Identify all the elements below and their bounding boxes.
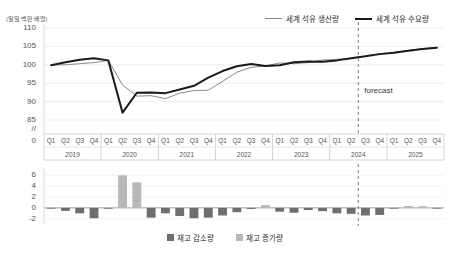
legend-item-stock-build: 재고 증가량 (236, 232, 283, 243)
bar-stock-draw (61, 208, 70, 211)
line-chart-legend: 세계 석유 생산량 세계 석유 수요량 (265, 13, 429, 24)
bar-stock-draw (361, 208, 370, 216)
x-axis-quarter-label: Q2 (290, 137, 299, 145)
x-axis-quarter-label: Q3 (247, 137, 256, 145)
legend-label-stock-build: 재고 증가량 (246, 232, 283, 243)
bar-stock-draw (147, 208, 156, 218)
bar-stock-draw (218, 208, 227, 216)
bar-stock-draw (432, 208, 441, 209)
x-axis-year-label-2025: 2025 (408, 151, 423, 158)
bar-stock-build (118, 175, 127, 208)
bar-stock-build (418, 206, 427, 208)
x-axis-quarter-label: Q3 (304, 137, 313, 145)
bar-stock-draw (290, 208, 299, 213)
x-axis-quarter-label: Q2 (175, 137, 184, 145)
x-axis-quarter-label: Q4 (90, 137, 99, 145)
bar-stock-draw (390, 208, 399, 209)
x-axis-quarter-label: Q2 (233, 137, 242, 145)
x-axis-year-label-2024: 2024 (351, 151, 366, 158)
x-axis-quarter-label: Q1 (218, 137, 227, 145)
bar-y-axis-tick-6: 6 (18, 170, 36, 179)
y-axis-tick-85: 85 (10, 115, 36, 124)
legend-label-stock-draw: 재고 감소량 (177, 232, 214, 243)
x-axis-quarter-label: Q3 (190, 137, 199, 145)
y-axis-break-symbol: // (10, 124, 36, 133)
bar-stock-draw (90, 208, 99, 218)
x-axis-quarter-label: Q3 (133, 137, 142, 145)
x-axis-quarter-label: Q1 (104, 137, 113, 145)
y-axis-tick-100: 100 (10, 60, 36, 69)
legend-line-production-icon (265, 18, 282, 19)
bar-stock-draw (75, 208, 84, 213)
x-axis-year-label-2021: 2021 (180, 151, 195, 158)
x-axis-quarter-label: Q4 (433, 137, 442, 145)
chart-canvas: Q1Q2Q3Q42019Q1Q2Q3Q42020Q1Q2Q3Q42021Q1Q2… (0, 0, 450, 256)
bar-stock-draw (161, 208, 170, 213)
legend-label-demand: 세계 석유 수요량 (376, 13, 429, 24)
x-axis-quarter-label: Q1 (333, 137, 342, 145)
bar-stock-build (132, 182, 141, 208)
legend-item-stock-draw: 재고 감소량 (167, 232, 214, 243)
x-axis-quarter-label: Q4 (147, 137, 156, 145)
bar-stock-draw (175, 208, 184, 216)
x-axis-year-label-2022: 2022 (237, 151, 252, 158)
bar-stock-draw (375, 208, 384, 215)
bar-stock-draw (47, 208, 56, 209)
chart-root: (일일 백만 배럴) 세계 석유 생산량 세계 석유 수요량 forecast … (0, 0, 450, 256)
bar-y-axis-tick-0: 0 (18, 203, 36, 212)
bar-stock-draw (304, 208, 313, 210)
line-series-demand (51, 48, 437, 113)
y-axis-tick-95: 95 (10, 78, 36, 87)
x-axis-quarter-label: Q3 (361, 137, 370, 145)
x-axis-quarter-label: Q4 (318, 137, 327, 145)
bar-stock-draw (275, 208, 284, 212)
x-axis-quarter-label: Q1 (161, 137, 170, 145)
bar-y-axis-tick-4: 4 (18, 181, 36, 190)
x-axis-quarter-label: Q1 (47, 137, 56, 145)
bar-y-axis-tick--2: -2 (18, 214, 36, 223)
legend-line-demand-icon (355, 18, 372, 20)
x-axis-quarter-label: Q1 (275, 137, 284, 145)
y-axis-unit-label: (일일 백만 배럴) (6, 14, 47, 23)
x-axis-year-label-2019: 2019 (65, 151, 80, 158)
bar-stock-draw (190, 208, 199, 218)
legend-label-production: 세계 석유 생산량 (286, 13, 339, 24)
x-axis-quarter-label: Q2 (404, 137, 413, 145)
x-axis-quarter-label: Q3 (75, 137, 84, 145)
bar-stock-draw (204, 208, 213, 218)
bar-stock-draw (247, 208, 256, 209)
y-axis-tick-90: 90 (10, 97, 36, 106)
bar-stock-draw (232, 208, 241, 212)
x-axis-year-label-2020: 2020 (122, 151, 137, 158)
bar-stock-draw (318, 208, 327, 211)
y-axis-tick-0: 0 (10, 136, 36, 145)
x-axis-quarter-label: Q4 (261, 137, 270, 145)
legend-swatch-stock-build-icon (236, 234, 243, 241)
x-axis-quarter-label: Q3 (418, 137, 427, 145)
bar-stock-draw (332, 208, 341, 213)
y-axis-tick-110: 110 (10, 23, 36, 32)
y-axis-tick-105: 105 (10, 41, 36, 50)
forecast-annotation: forecast (364, 86, 392, 95)
x-axis-quarter-label: Q4 (204, 137, 213, 145)
bar-stock-build (261, 205, 270, 208)
x-axis-quarter-label: Q2 (61, 137, 70, 145)
x-axis-year-label-2023: 2023 (294, 151, 309, 158)
bar-stock-build (404, 206, 413, 208)
bar-stock-draw (104, 208, 113, 209)
legend-item-production: 세계 석유 생산량 (265, 13, 339, 24)
bar-stock-draw (347, 208, 356, 214)
x-axis-quarter-label: Q2 (118, 137, 127, 145)
legend-swatch-stock-draw-icon (167, 234, 174, 241)
x-axis-quarter-label: Q2 (347, 137, 356, 145)
legend-item-demand: 세계 석유 수요량 (355, 13, 429, 24)
x-axis-quarter-label: Q1 (390, 137, 399, 145)
bar-y-axis-tick-2: 2 (18, 192, 36, 201)
bar-chart-legend: 재고 감소량 재고 증가량 (0, 232, 450, 243)
x-axis-quarter-label: Q4 (375, 137, 384, 145)
